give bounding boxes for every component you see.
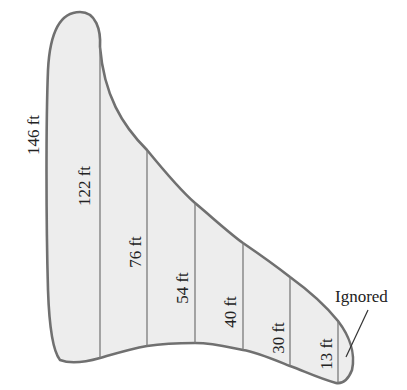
measurement-label-54ft: 54 ft xyxy=(173,272,192,304)
measurement-label-122ft: 122 ft xyxy=(75,166,94,206)
ignored-leader-line xyxy=(346,310,368,357)
land-region-diagram: 146 ft 122 ft 76 ft 54 ft 40 ft 30 ft 13… xyxy=(0,0,407,390)
ignored-label: Ignored xyxy=(335,287,388,306)
measurement-label-76ft: 76 ft xyxy=(126,236,145,268)
measurement-label-13ft: 13 ft xyxy=(317,338,336,370)
measurement-label-146ft: 146 ft xyxy=(24,115,43,155)
measurement-label-40ft: 40 ft xyxy=(221,296,240,328)
measurement-label-30ft: 30 ft xyxy=(269,322,288,354)
